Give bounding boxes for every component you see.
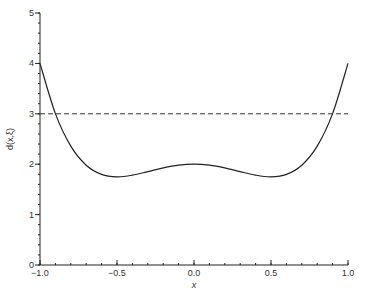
axes: [40, 13, 348, 265]
tick-labels: 012345−1.0−0.50.00.51.0: [29, 8, 354, 278]
x-tick-label: 1.0: [342, 268, 355, 278]
series-line-d: [40, 63, 348, 176]
chart-canvas: 012345−1.0−0.50.00.51.0 x d(x,ξ): [0, 0, 373, 301]
y-tick-label: 5: [29, 8, 34, 18]
x-tick-label: −1.0: [31, 268, 49, 278]
y-axis-title: d(x,ξ): [5, 128, 15, 150]
y-tick-label: 2: [29, 159, 34, 169]
x-tick-label: 0.5: [265, 268, 278, 278]
x-axis-title: x: [191, 280, 197, 290]
y-tick-label: 4: [29, 58, 34, 68]
ticks: [35, 13, 348, 265]
y-tick-label: 3: [29, 109, 34, 119]
x-tick-label: −0.5: [108, 268, 126, 278]
x-tick-label: 0.0: [188, 268, 201, 278]
y-tick-label: 1: [29, 210, 34, 220]
series-group: [40, 63, 348, 176]
